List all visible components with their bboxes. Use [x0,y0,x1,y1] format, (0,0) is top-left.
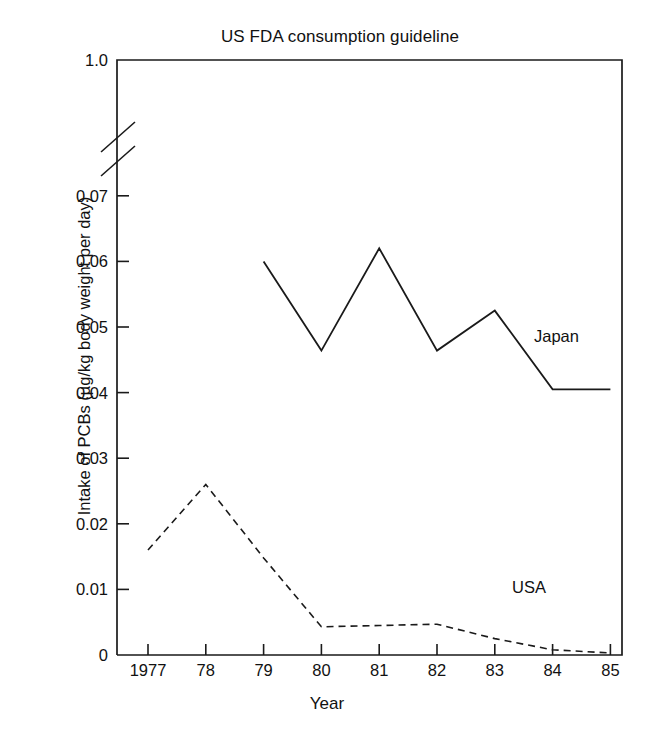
x-axis-tick-marks [148,644,610,655]
series-line-usa [148,484,610,653]
y-axis-break-icon [101,122,135,176]
series-line-japan [264,248,611,389]
y-axis-tick-marks [117,196,129,590]
plot-area [0,0,654,737]
axis-frame [117,60,622,655]
data-series-host [148,248,610,653]
pcb-intake-chart-figure: US FDA consumption guideline Intake of P… [0,0,654,737]
